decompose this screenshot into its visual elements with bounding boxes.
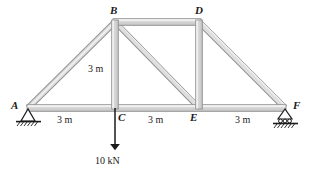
dimension-label-AC: 3 m bbox=[57, 115, 72, 125]
roller-support bbox=[273, 109, 298, 128]
member-BE bbox=[115, 21, 200, 108]
load-label: 10 kN bbox=[95, 156, 120, 166]
dimension-label-vertical-BC: 3 m bbox=[88, 64, 103, 74]
truss-drawing-canvas bbox=[0, 0, 313, 176]
node-label-F: F bbox=[293, 100, 300, 111]
truss-members bbox=[27, 19, 286, 112]
node-label-C: C bbox=[118, 112, 125, 123]
member-DF bbox=[199, 21, 286, 108]
node-label-A: A bbox=[11, 100, 18, 111]
dimension-label-CE: 3 m bbox=[148, 115, 163, 125]
member-DE bbox=[196, 20, 203, 109]
member-BC bbox=[112, 20, 119, 109]
node-label-D: D bbox=[195, 5, 203, 16]
member-bottom-chord bbox=[27, 105, 286, 112]
member-BD bbox=[113, 19, 201, 26]
node-label-B: B bbox=[110, 5, 117, 16]
node-label-E: E bbox=[190, 112, 197, 123]
truss-diagram: A B C D E F 3 m 3 m 3 m 3 m 10 kN bbox=[0, 0, 313, 176]
dimension-label-EF: 3 m bbox=[235, 115, 250, 125]
